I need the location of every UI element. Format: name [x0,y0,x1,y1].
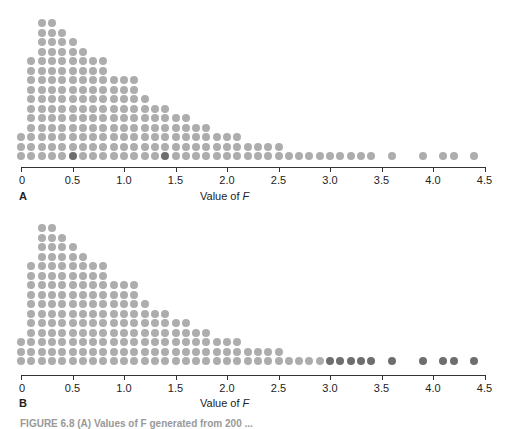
data-dot [110,348,118,356]
data-dot [27,348,35,356]
data-dot [202,329,210,337]
data-dot [161,338,169,346]
data-dot [89,357,97,365]
data-dot [89,329,97,337]
data-dot [48,253,56,261]
figure-caption: FIGURE 6.8 (A) Values of F generated fro… [20,418,253,429]
data-dot [161,319,169,327]
data-dot [110,329,118,337]
data-dot [38,272,46,280]
data-dot [99,357,107,365]
data-dot [202,348,210,356]
data-dot [89,300,97,308]
data-dot [89,291,97,299]
data-dot [79,291,87,299]
data-dot [141,348,149,356]
data-dot [48,291,56,299]
data-dot [213,348,221,356]
data-dot [69,319,77,327]
data-dot [192,338,200,346]
x-tick-label: 2.5 [271,382,286,394]
data-dot [367,357,375,365]
data-dot [58,291,66,299]
data-dot [120,329,128,337]
data-dot [450,357,458,365]
data-dot [192,357,200,365]
data-dot [130,348,138,356]
data-dot [48,234,56,242]
data-dot [58,281,66,289]
data-dot [89,262,97,270]
data-dot [99,272,107,280]
x-tick-label: 0.5 [65,382,80,394]
data-dot [151,319,159,327]
data-dot [27,329,35,337]
data-dot [233,348,241,356]
data-dot [110,357,118,365]
data-dot [120,291,128,299]
x-tick-label: 1.0 [116,382,131,394]
data-dot [233,357,241,365]
panel-label-b: B [19,397,27,409]
data-dot [89,348,97,356]
x-tick [227,375,228,380]
x-tick [433,375,434,380]
data-dot [275,357,283,365]
data-dot [151,329,159,337]
x-axis-b [21,375,485,376]
data-dot [48,329,56,337]
data-dot [38,338,46,346]
data-dot [58,253,66,261]
data-dot [38,281,46,289]
x-tick-label: 3.5 [374,382,389,394]
x-tick-label: 1.5 [168,382,183,394]
data-dot [48,348,56,356]
data-dot [130,338,138,346]
data-dot [79,281,87,289]
data-dot [141,310,149,318]
x-tick [21,375,22,380]
data-dot [38,234,46,242]
data-dot [151,357,159,365]
data-dot [182,348,190,356]
data-dot [58,319,66,327]
data-dot [439,357,447,365]
data-dot [69,348,77,356]
data-dot [79,262,87,270]
x-tick [382,375,383,380]
data-dot [120,348,128,356]
data-dot [48,281,56,289]
data-dot [27,291,35,299]
data-dot [244,348,252,356]
data-dot [233,338,241,346]
data-dot [58,262,66,270]
x-tick-label: 0 [19,382,25,394]
data-dot [48,357,56,365]
data-dot [38,253,46,261]
data-dot [141,338,149,346]
data-dot [99,329,107,337]
data-dot [58,338,66,346]
data-dot [79,329,87,337]
data-dot [161,357,169,365]
data-dot [58,348,66,356]
x-tick [485,375,486,380]
data-dot [130,300,138,308]
data-dot [316,357,324,365]
data-dot [172,338,180,346]
data-dot [110,338,118,346]
data-dot [182,319,190,327]
data-dot [38,243,46,251]
data-dot [141,357,149,365]
data-dot [130,310,138,318]
data-dot [182,329,190,337]
data-dot [202,338,210,346]
data-dot [69,272,77,280]
x-tick-label: 4.5 [477,382,492,394]
data-dot [110,300,118,308]
data-dot [38,224,46,232]
data-dot [48,300,56,308]
data-dot [141,329,149,337]
data-dot [172,348,180,356]
data-dot [161,310,169,318]
